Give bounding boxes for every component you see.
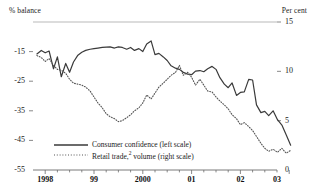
left-tick-neg25: -25 <box>3 76 25 85</box>
series-line-consumer-confidence <box>37 41 291 145</box>
left-tick-neg15: -15 <box>3 47 25 56</box>
x-tick-99: 99 <box>74 175 114 184</box>
x-tick-03: 03 <box>257 175 297 184</box>
legend-label-retail-trade-pre: Retail trade, <box>92 152 129 161</box>
legend-label-retail-trade-post: volume (right scale) <box>131 152 193 161</box>
legend-swatches <box>54 145 88 155</box>
series-line-retail-trade <box>37 56 291 154</box>
right-tick-5: 5 <box>285 116 307 125</box>
x-tick-02: 02 <box>220 175 260 184</box>
series-layer <box>37 41 291 153</box>
x-tick-01: 01 <box>172 175 212 184</box>
right-tick-15: 15 <box>285 17 307 26</box>
legend-label-retail-trade: Retail trade,2 volume (right scale) <box>92 150 194 161</box>
chart-plot-area <box>0 0 315 192</box>
left-tick-neg35: -35 <box>3 106 25 115</box>
right-tick-10: 10 <box>285 66 307 75</box>
chart-container: % balance Per cent -15-25-35-45-55 15105… <box>0 0 315 192</box>
left-tick-neg45: -45 <box>3 135 25 144</box>
right-tick-0: 0 <box>285 165 307 174</box>
x-tick-2000: 2000 <box>123 175 163 184</box>
left-tick-neg55: -55 <box>3 165 25 174</box>
x-tick-1998: 1998 <box>25 175 65 184</box>
legend-label-consumer-confidence: Consumer confidence (left scale) <box>92 140 191 149</box>
